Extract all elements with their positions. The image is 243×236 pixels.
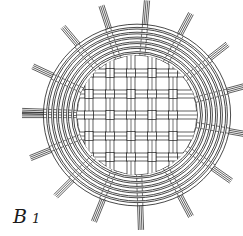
figure-label: B1 bbox=[13, 205, 41, 227]
label-number: 1 bbox=[32, 211, 41, 226]
woven-basket-diagram bbox=[0, 0, 243, 236]
label-letter: B bbox=[13, 205, 28, 227]
